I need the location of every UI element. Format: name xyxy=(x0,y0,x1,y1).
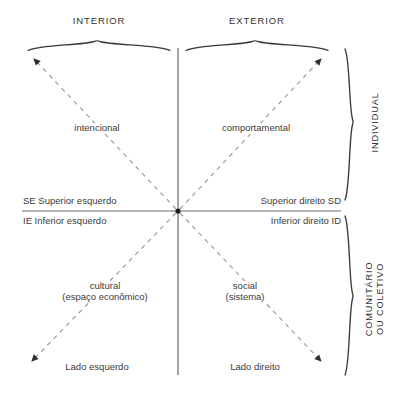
quadrant-term-upper-right-text: comportamental xyxy=(220,123,292,134)
quadrant-term-lower-left-line2: (espaço econômico) xyxy=(60,292,150,303)
axis-label-inferior-esquerdo: IE Inferior esquerdo xyxy=(23,216,106,227)
corner-label-lado-esquerdo: Lado esquerdo xyxy=(45,362,149,373)
diagonal-arrow-upper-right xyxy=(180,61,319,209)
axis-label-superior-direito: Superior direito SD xyxy=(183,196,341,207)
corner-label-lado-direito: Lado direito xyxy=(203,362,307,373)
quadrant-term-lower-left: cultural (espaço econômico) xyxy=(45,281,165,303)
quadrant-term-upper-left: intencional xyxy=(37,123,157,134)
axis-label-superior-esquerdo: SE Superior esquerdo xyxy=(23,196,116,207)
brace-individual xyxy=(345,49,353,200)
axis-label-inferior-direito: Inferior direito ID xyxy=(183,216,341,227)
diagonal-arrow-upper-left xyxy=(36,61,176,209)
row-label-comunitario-line2: OU COLETIVO xyxy=(375,219,386,379)
brace-comunitario xyxy=(345,216,353,375)
brace-exterior xyxy=(186,41,328,51)
row-label-comunitario: COMUNITÁRIO OU COLETIVO xyxy=(364,219,386,379)
row-label-comunitario-line1: COMUNITÁRIO xyxy=(364,219,375,379)
quadrant-diagram: INTERIOR EXTERIOR intencional comportame… xyxy=(0,0,393,393)
row-label-individual: INDIVIDUAL xyxy=(370,57,381,187)
quadrant-term-lower-right: social (sistema) xyxy=(185,281,305,303)
quadrant-term-lower-right-line2: (sistema) xyxy=(223,292,266,303)
quadrant-term-upper-left-text: intencional xyxy=(72,123,121,134)
axis-origin-dot xyxy=(175,208,180,213)
column-heading-exterior: EXTERIOR xyxy=(186,16,328,27)
brace-interior xyxy=(28,41,170,51)
quadrant-term-upper-right: comportamental xyxy=(196,123,316,134)
column-heading-interior: INTERIOR xyxy=(28,16,170,27)
